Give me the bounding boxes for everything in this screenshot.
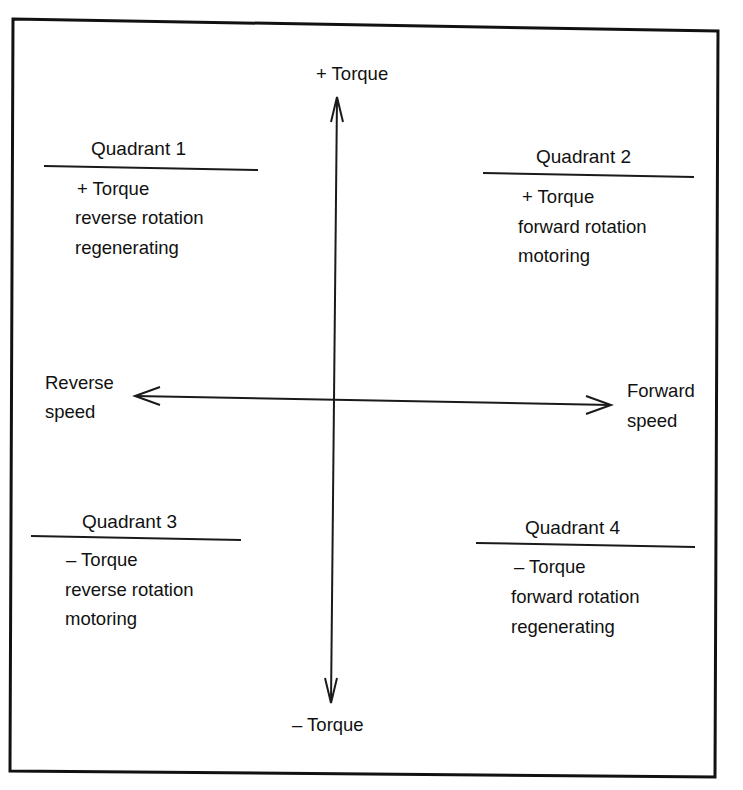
quadrant-2-title: Quadrant 2 [536, 146, 631, 167]
quadrant-4-torque: – Torque [514, 556, 586, 577]
quadrant-1-block: Quadrant 1 + Torque reverse rotation reg… [44, 138, 258, 258]
quadrant-3-mode: motoring [65, 608, 137, 629]
quadrant-3-title: Quadrant 3 [82, 511, 177, 532]
quadrant-1-torque: + Torque [77, 178, 149, 199]
quadrant-4-block: Quadrant 4 – Torque forward rotation reg… [476, 517, 695, 637]
speed-axis [135, 387, 611, 414]
quadrant-1-title: Quadrant 1 [91, 138, 186, 159]
quadrant-2-mode: motoring [518, 245, 590, 266]
four-quadrant-diagram: + Torque – Torque Reverse speed Forward … [0, 0, 743, 790]
quadrant-4-mode: regenerating [511, 616, 615, 637]
quadrant-2-torque: + Torque [522, 186, 594, 207]
quadrant-1-rotation: reverse rotation [75, 207, 204, 228]
positive-torque-label: + Torque [316, 63, 388, 84]
quadrant-1-divider [44, 166, 258, 170]
negative-torque-label: – Torque [292, 714, 364, 735]
forward-speed-label-line2: speed [627, 410, 677, 431]
speed-axis-line [135, 396, 611, 405]
quadrant-4-divider [476, 543, 695, 547]
quadrant-1-mode: regenerating [75, 237, 179, 258]
quadrant-4-title: Quadrant 4 [525, 517, 620, 538]
reverse-speed-label-line2: speed [45, 401, 95, 422]
forward-speed-label-line1: Forward [627, 380, 695, 401]
quadrant-3-block: Quadrant 3 – Torque reverse rotation mot… [31, 511, 241, 629]
quadrant-3-divider [31, 536, 241, 540]
quadrant-2-rotation: forward rotation [518, 216, 647, 237]
quadrant-4-rotation: forward rotation [511, 586, 640, 607]
quadrant-3-torque: – Torque [66, 549, 138, 570]
reverse-speed-label-line1: Reverse [45, 372, 114, 393]
quadrant-2-divider [483, 173, 694, 177]
diagram-frame [10, 19, 718, 777]
quadrant-3-rotation: reverse rotation [65, 579, 194, 600]
quadrant-2-block: Quadrant 2 + Torque forward rotation mot… [483, 146, 694, 266]
